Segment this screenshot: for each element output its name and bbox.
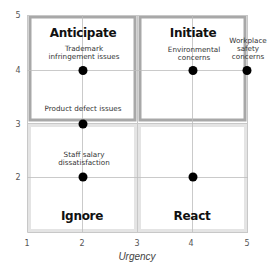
y-tick-label: 4	[15, 66, 20, 75]
data-point	[79, 173, 88, 182]
y-tick-label: 5	[15, 11, 20, 20]
data-point	[79, 120, 88, 129]
quadrant-title-ignore: Ignore	[61, 209, 103, 223]
x-axis-label: Urgency	[118, 251, 156, 262]
quadrant-title-react: React	[174, 209, 211, 223]
quadrant-title-initiate: Initiate	[170, 26, 217, 40]
data-point	[79, 66, 88, 75]
y-tick-label: 2	[15, 173, 20, 182]
data-point	[243, 66, 252, 75]
y-tick-label: 3	[15, 120, 20, 129]
data-point	[189, 66, 198, 75]
x-tick-label: 1	[24, 239, 29, 248]
point-label: Product defect issues	[45, 104, 122, 113]
priority-matrix-chart: Anticipate Initiate Ignore React Tradema…	[0, 0, 275, 277]
x-tick-label: 3	[134, 239, 139, 248]
data-point	[189, 173, 198, 182]
point-label: infringement issues	[49, 52, 120, 61]
x-tick-label: 5	[244, 239, 249, 248]
x-tick-label: 4	[188, 239, 193, 248]
point-label: dissatisfaction	[58, 158, 110, 167]
quadrant-title-anticipate: Anticipate	[50, 26, 117, 40]
x-tick-label: 2	[79, 239, 84, 248]
point-label: concerns	[178, 53, 211, 62]
point-label: concerns	[232, 52, 265, 61]
